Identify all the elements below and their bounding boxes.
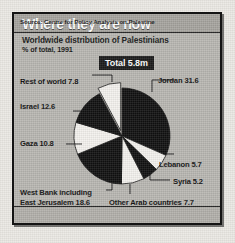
leader-line-syria	[150, 174, 170, 180]
label-israel: Israel 12.6	[20, 102, 55, 112]
leader-line-rest-of-world	[92, 75, 112, 82]
chart-panel: Where they are now Worldwide distributio…	[12, 12, 222, 225]
label-rest-of-world: Rest of world 7.8	[20, 77, 78, 87]
label-west-bank-line1: West Bank including	[20, 188, 92, 198]
label-lebanon: Lebanon 5.7	[159, 160, 202, 170]
leader-line-west-bank	[106, 182, 112, 190]
source-text: Source: Centre for Policy Analysis on Pa…	[20, 18, 155, 25]
label-syria: Syria 5.2	[173, 177, 203, 187]
label-gaza: Gaza 10.8	[20, 139, 54, 149]
source-bar	[14, 206, 220, 223]
label-jordan: Jordan 31.6	[158, 76, 199, 86]
